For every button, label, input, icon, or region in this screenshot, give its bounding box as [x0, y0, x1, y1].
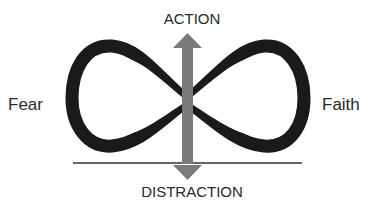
- fear-label: Fear: [8, 95, 43, 115]
- distraction-label: DISTRACTION: [0, 183, 380, 200]
- action-label: ACTION: [0, 10, 380, 27]
- faith-label: Faith: [322, 95, 360, 115]
